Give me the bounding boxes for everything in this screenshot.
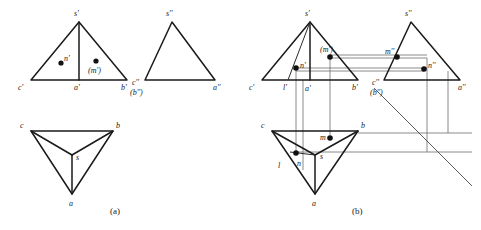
- top-view-a-label-bottom: a: [69, 199, 73, 208]
- side-view-b-label-n: n'': [428, 61, 436, 70]
- top-view-b-label-n: n: [297, 159, 301, 168]
- top-view-a-spoke-right: [72, 131, 113, 155]
- side-view-a-label-left-bottom: (b''): [130, 88, 143, 97]
- top-view-a-label-right: b: [116, 121, 120, 130]
- front-view-a-point-n: [58, 60, 63, 65]
- top-view-b-label-l: l: [278, 161, 281, 170]
- side-view-b-label-apex: s'': [405, 9, 412, 18]
- caption-b: (b): [352, 206, 363, 216]
- side-view-a: s'' c'' (b'') a'': [130, 9, 221, 97]
- front-view-b-label-m: (m'): [320, 45, 333, 54]
- front-view-a-label-m: (m'): [88, 66, 101, 75]
- front-view-a-label-apex: s': [74, 9, 79, 18]
- top-view-b-point-m: [327, 135, 333, 141]
- front-view-a-label-right: b': [121, 83, 127, 92]
- front-view-a: s' c' a' b' n' (m'): [18, 9, 127, 92]
- top-view-a-spoke-left: [31, 131, 72, 155]
- front-view-b-label-left: c': [249, 83, 255, 92]
- side-view-b-label-right: a'': [458, 83, 466, 92]
- front-view-b-label-center: a': [305, 84, 311, 93]
- front-view-b-label-l: l': [283, 83, 287, 92]
- front-view-a-label-center: a': [74, 83, 80, 92]
- side-view-a-label-apex: s'': [166, 9, 173, 18]
- side-view-a-label-left-top: c'': [132, 78, 139, 87]
- side-view-b-label-m: m'': [385, 47, 394, 56]
- front-view-a-label-n: n': [64, 54, 70, 63]
- panel-a: s' c' a' b' n' (m') s'' c'' (b'') a'': [18, 9, 221, 216]
- top-view-b-label-m: m: [320, 133, 326, 142]
- side-view-b-point-m: [394, 54, 400, 60]
- side-view-a-label-right: a'': [213, 83, 221, 92]
- top-view-b-label-bottom: a: [312, 199, 316, 208]
- figure-canvas: s' c' a' b' n' (m') s'' c'' (b'') a'': [0, 0, 481, 230]
- top-view-b-label-right: b: [361, 121, 365, 130]
- front-view-b-label-apex: s': [305, 9, 310, 18]
- figure-root: s' c' a' b' n' (m') s'' c'' (b'') a'': [0, 0, 481, 230]
- top-view-b-point-n: [293, 150, 299, 156]
- top-view-b: c b a s m n l: [261, 121, 365, 208]
- front-view-b-point-n: [293, 65, 299, 71]
- front-view-b-label-n: n': [300, 61, 306, 70]
- front-view-a-label-left: c': [18, 83, 24, 92]
- top-view-a-label-center: s: [76, 153, 79, 162]
- front-view-b-label-right: b': [352, 83, 358, 92]
- side-view-a-outline: [145, 22, 215, 80]
- side-view-b: s'' c'' (b'') a'' m'' n'': [370, 9, 466, 97]
- top-view-a: c b a s: [20, 121, 120, 208]
- top-view-a-label-left: c: [20, 121, 24, 130]
- top-view-b-label-left: c: [261, 121, 265, 130]
- side-view-b-label-left-top: c'': [372, 78, 379, 87]
- side-view-b-point-n: [421, 66, 427, 72]
- front-view-b: s' c' a' b' n' (m') l': [249, 9, 358, 93]
- top-view-b-spoke-left: [272, 131, 315, 155]
- top-view-b-label-center: s: [320, 152, 323, 161]
- front-view-b-point-m: [327, 54, 333, 60]
- panel-b: s' c' a' b' n' (m') l' s'' c'' (b'') a''…: [249, 9, 472, 216]
- front-view-a-point-m: [93, 58, 98, 63]
- side-view-b-label-left-bottom: (b''): [370, 88, 383, 97]
- miter-line-45: [374, 88, 472, 186]
- caption-a: (a): [110, 206, 120, 216]
